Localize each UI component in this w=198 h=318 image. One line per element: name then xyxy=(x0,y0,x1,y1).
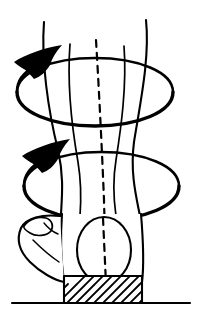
anatomical-rotation-diagram xyxy=(0,0,198,318)
figure-root: Tibial rotation over fixed foot xyxy=(0,0,198,318)
ground-block-fill xyxy=(64,276,142,303)
